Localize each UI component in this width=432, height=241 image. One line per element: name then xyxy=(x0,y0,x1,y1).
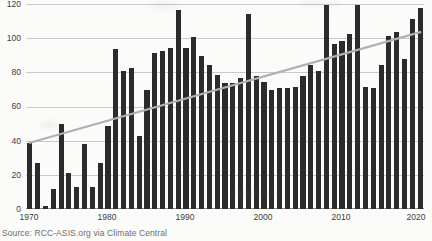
y-tick-label: 80 xyxy=(0,68,21,76)
y-tick-label: 100 xyxy=(0,34,21,42)
x-tick-label: 2010 xyxy=(326,213,356,222)
source-caption: Source: RCC-ASIS.org via Climate Central xyxy=(2,228,167,238)
y-tick-label: 0 xyxy=(0,205,21,213)
x-tick-label: 2000 xyxy=(248,213,278,222)
x-tick-label: 1970 xyxy=(14,213,44,222)
x-tick-label: 2020 xyxy=(401,213,431,222)
y-tick-label: 40 xyxy=(0,137,21,145)
x-tick-label: 1980 xyxy=(92,213,122,222)
y-tick-label: 120 xyxy=(0,0,21,8)
chart-container: 120 100 80 60 40 20 0 1970 1980 1990 200… xyxy=(0,0,432,241)
plot-area xyxy=(26,4,424,209)
x-tick-label: 1990 xyxy=(170,213,200,222)
trendline xyxy=(26,4,424,209)
y-tick-label: 60 xyxy=(0,102,21,110)
y-tick-label: 20 xyxy=(0,171,21,179)
